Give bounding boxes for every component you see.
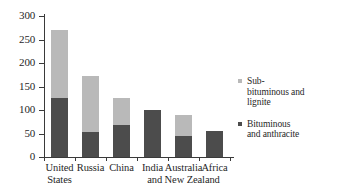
chart-legend: Sub- bituminous and lignite Bituminous a… bbox=[238, 76, 342, 151]
x-axis-tick bbox=[230, 157, 231, 161]
bar-segment-sub-bituminous-and-lignite bbox=[82, 76, 99, 132]
bar-segment-bituminous-and-anthracite bbox=[144, 110, 161, 157]
legend-swatch-icon-bituminous bbox=[238, 122, 242, 126]
y-axis-tick-label: 100 bbox=[1, 104, 35, 115]
bar-segment-sub-bituminous-and-lignite bbox=[175, 115, 192, 136]
bar-segment-sub-bituminous-and-lignite bbox=[51, 30, 68, 98]
y-axis-tick-label: 250 bbox=[1, 34, 35, 45]
y-axis-tick-label: 0 bbox=[1, 151, 35, 162]
legend-item-sub-bituminous-and-lignite: Sub- bituminous and lignite bbox=[238, 76, 342, 108]
y-axis-tick-label: 200 bbox=[1, 57, 35, 68]
x-axis-tick bbox=[137, 157, 138, 161]
legend-label-line: lignite bbox=[247, 97, 342, 108]
stacked-bar-chart: 050100150200250300 UnitedStatesRussiaChi… bbox=[0, 0, 343, 194]
x-axis-category-label-line: Africa bbox=[190, 162, 240, 174]
y-axis-tick-label: 150 bbox=[1, 81, 35, 92]
legend-label-line: bituminous and bbox=[247, 87, 342, 98]
x-axis-tick bbox=[44, 157, 45, 161]
bar-segment-bituminous-and-anthracite bbox=[175, 136, 192, 157]
bar-india bbox=[144, 110, 161, 157]
legend-label-line: Bituminous bbox=[247, 119, 342, 130]
y-axis-tick-label: 50 bbox=[1, 128, 35, 139]
legend-label-line: Sub- bbox=[247, 76, 342, 87]
y-axis-tick-label: 300 bbox=[1, 10, 35, 21]
bar-segment-bituminous-and-anthracite bbox=[82, 132, 99, 157]
plot-area bbox=[44, 16, 230, 157]
legend-item-bituminous-and-anthracite: Bituminous and anthracite bbox=[238, 119, 342, 140]
bar-russia bbox=[82, 76, 99, 157]
bar-africa bbox=[206, 131, 223, 157]
x-axis-tick bbox=[199, 157, 200, 161]
bar-segment-bituminous-and-anthracite bbox=[206, 131, 223, 157]
bar-united-states bbox=[51, 30, 68, 157]
x-axis-tick bbox=[168, 157, 169, 161]
bar-china bbox=[113, 98, 130, 157]
legend-label-line: and anthracite bbox=[247, 129, 342, 140]
x-axis-line bbox=[44, 157, 234, 158]
legend-swatch-icon-sub-bituminous bbox=[238, 79, 242, 83]
bar-segment-bituminous-and-anthracite bbox=[113, 125, 130, 157]
bar-segment-sub-bituminous-and-lignite bbox=[113, 98, 130, 125]
x-axis-category-label-line: and New Zealand bbox=[145, 174, 223, 186]
x-axis-tick bbox=[106, 157, 107, 161]
bar-segment-bituminous-and-anthracite bbox=[51, 98, 68, 157]
bar-australia-and-new-zealand bbox=[175, 115, 192, 157]
x-axis-category-label: Africa bbox=[190, 162, 240, 174]
x-axis-category-label-line: States bbox=[35, 174, 85, 186]
x-axis-tick bbox=[75, 157, 76, 161]
